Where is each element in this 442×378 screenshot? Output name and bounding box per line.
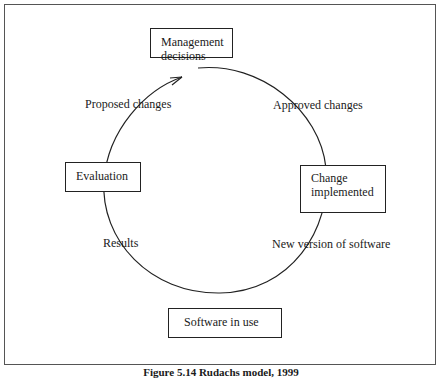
change-implemented-node: Change implemented [300, 165, 386, 213]
evaluation-label: Evaluation [76, 169, 128, 183]
software-in-use-label: Software in use [184, 315, 259, 329]
change-implemented-label-1: Change [311, 171, 385, 185]
software-in-use-node: Software in use [168, 308, 282, 338]
evaluation-node: Evaluation [65, 162, 141, 192]
change-implemented-label-2: implemented [311, 185, 385, 199]
proposed-changes-label: Proposed changes [85, 97, 171, 112]
approved-changes-label: Approved changes [273, 98, 363, 113]
new-version-label: New version of software [272, 237, 390, 252]
results-label: Results [103, 236, 138, 251]
figure-caption: Figure 5.14 Rudachs model, 1999 [0, 366, 442, 378]
management-decisions-node: Management decisions [150, 28, 233, 58]
